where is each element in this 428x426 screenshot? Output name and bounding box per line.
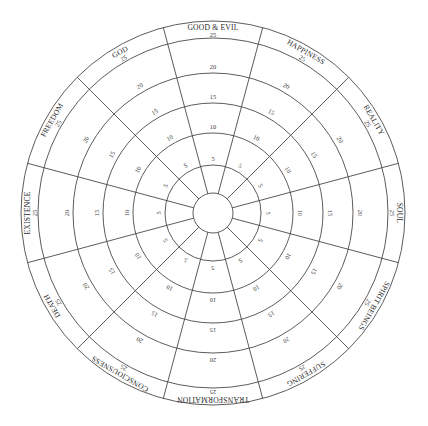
scale-label-20: 20: [336, 282, 345, 291]
category-label-happiness: HAPPINESS: [285, 37, 326, 66]
scale-label-25: 25: [389, 210, 396, 216]
scale-label-15: 15: [150, 107, 159, 116]
scale-label-20: 20: [135, 81, 144, 90]
scale-label-15: 15: [327, 210, 334, 216]
radial-wheel-diagram: GOOD & EVIL510152025HAPPINESS510152025RE…: [0, 0, 428, 426]
scale-label-10: 10: [123, 210, 130, 216]
scale-label-5: 5: [182, 162, 188, 170]
scale-label-25: 25: [210, 31, 216, 38]
scale-label-25: 25: [210, 389, 216, 396]
category-label-freedom: FREEDOM: [39, 101, 66, 138]
scale-label-20: 20: [135, 336, 144, 345]
scale-label-10: 10: [210, 297, 216, 304]
scale-label-10: 10: [252, 284, 261, 293]
scale-label-15: 15: [107, 267, 116, 276]
center-circle: [193, 193, 233, 233]
scale-label-20: 20: [81, 135, 90, 144]
scale-label-10: 10: [284, 252, 293, 261]
scale-label-5: 5: [257, 182, 265, 188]
scale-label-15: 15: [267, 310, 276, 319]
segment-divider: [232, 218, 398, 263]
scale-label-15: 15: [150, 310, 159, 319]
scale-label-5: 5: [182, 257, 188, 265]
scale-label-5: 5: [257, 237, 265, 243]
scale-label-20: 20: [210, 63, 216, 70]
scale-label-20: 20: [282, 336, 291, 345]
scale-label-10: 10: [133, 165, 142, 174]
segment-divider: [77, 227, 199, 349]
scale-label-5: 5: [162, 182, 170, 188]
scale-label-20: 20: [357, 210, 364, 216]
scale-label-20: 20: [210, 357, 216, 364]
scale-label-15: 15: [93, 210, 100, 216]
scale-label-10: 10: [210, 123, 216, 130]
scale-label-5: 5: [237, 162, 243, 170]
scale-label-10: 10: [165, 284, 174, 293]
scale-label-25: 25: [31, 210, 38, 216]
segment-divider: [218, 28, 263, 194]
segment-divider: [227, 77, 349, 199]
category-label-suffering: SUFFERING: [285, 359, 327, 389]
segment-divider: [28, 163, 194, 208]
scale-label-5: 5: [211, 265, 214, 272]
scale-label-5: 5: [211, 155, 214, 162]
scale-label-20: 20: [63, 210, 70, 216]
scale-label-5: 5: [265, 211, 272, 214]
scale-label-10: 10: [252, 133, 261, 142]
scale-label-15: 15: [210, 93, 216, 100]
scale-label-10: 10: [297, 210, 304, 216]
scale-label-5: 5: [162, 237, 170, 243]
scale-label-15: 15: [310, 267, 319, 276]
scale-label-20: 20: [282, 81, 291, 90]
scale-label-10: 10: [284, 165, 293, 174]
segment-divider: [163, 232, 208, 398]
scale-label-15: 15: [310, 150, 319, 159]
segment-divider: [227, 227, 349, 349]
scale-label-20: 20: [81, 282, 90, 291]
scale-label-15: 15: [267, 107, 276, 116]
scale-label-20: 20: [336, 135, 345, 144]
scale-label-15: 15: [210, 327, 216, 334]
scale-label-15: 15: [107, 150, 116, 159]
scale-label-10: 10: [165, 133, 174, 142]
category-label-consciousness: CONSCIOUSNESS: [90, 354, 150, 394]
scale-label-5: 5: [237, 257, 243, 265]
scale-label-10: 10: [133, 252, 142, 261]
scale-label-5: 5: [155, 211, 162, 214]
segment-dividers: [28, 28, 399, 399]
segment-divider: [77, 77, 199, 199]
